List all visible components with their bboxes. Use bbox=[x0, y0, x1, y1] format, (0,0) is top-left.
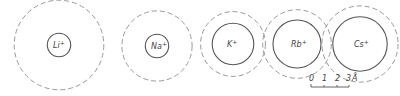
scale-label-3: 3 bbox=[346, 74, 351, 83]
ion-label-k: K+ bbox=[227, 38, 237, 49]
scale-unit: Å bbox=[351, 72, 357, 83]
ion-label-rb: Rb+ bbox=[291, 38, 307, 49]
ion-cs: Cs+ bbox=[322, 6, 398, 82]
ion-na: Na+ bbox=[122, 11, 192, 81]
scale-label-0: 0 bbox=[309, 74, 314, 83]
ion-radii-diagram: Li+Na+K+Rb+Cs+ 0 1 2 3 Å bbox=[0, 0, 400, 96]
ion-label-cs: Cs+ bbox=[354, 38, 369, 49]
scale-bar: 0 1 2 3 Å bbox=[309, 72, 357, 87]
ion-rb: Rb+ bbox=[263, 10, 332, 79]
scale-label-1: 1 bbox=[322, 74, 327, 83]
scale-label-2: 2 bbox=[335, 74, 340, 83]
ions-group: Li+Na+K+Rb+Cs+ bbox=[14, 0, 398, 90]
ion-k: K+ bbox=[201, 12, 266, 77]
ion-li: Li+ bbox=[14, 0, 104, 90]
ion-label-li: Li+ bbox=[53, 39, 65, 50]
ion-label-na: Na+ bbox=[151, 40, 167, 51]
